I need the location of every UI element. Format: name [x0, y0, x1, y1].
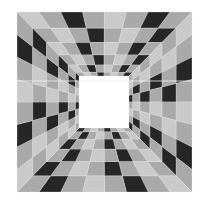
tunnel-tile [97, 72, 104, 76]
tunnel-tile [176, 80, 192, 103]
tunnel-tile [104, 72, 111, 76]
tunnel-tile [129, 102, 133, 109]
tunnel-tile [17, 102, 33, 125]
tunnel-tile [83, 12, 105, 28]
tunnel-tile [97, 128, 104, 132]
tunnel-tile [95, 65, 104, 72]
checkered-tunnel [0, 0, 205, 205]
tunnel-tile [104, 128, 111, 132]
tunnel-tile [75, 102, 79, 109]
tunnel-center-hole [79, 76, 129, 128]
tunnel-tile [129, 95, 133, 102]
tunnel-tile [75, 95, 79, 102]
